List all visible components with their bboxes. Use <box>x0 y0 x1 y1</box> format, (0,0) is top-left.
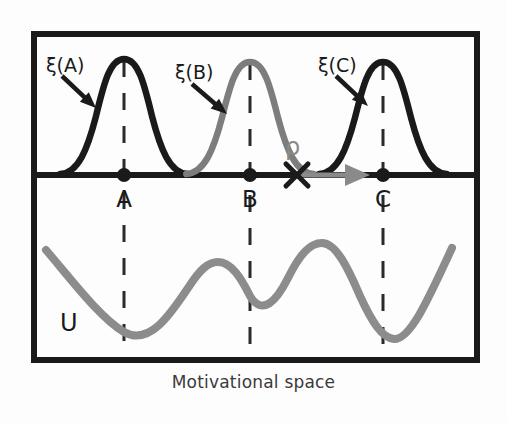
rho-arrow-head <box>345 164 370 186</box>
xi-c-label: ξ(C) <box>318 54 357 76</box>
top-panel-curves <box>60 59 446 174</box>
axis-point-dot-c <box>376 168 390 182</box>
axis-point-label-a: A <box>116 186 132 212</box>
motivational-space-diagram: ξ(A) ξ(B) ξ(C) ρ A B C U <box>0 0 507 423</box>
axis-point-label-c: C <box>375 186 391 212</box>
xi-b-pointer-arrow-icon <box>192 84 227 114</box>
xi-a-label: ξ(A) <box>46 54 84 76</box>
rho-label: ρ <box>285 133 300 161</box>
figure-root: ξ(A) ξ(B) ξ(C) ρ A B C U Motivational sp… <box>0 0 507 423</box>
axis-point-label-b: B <box>242 186 258 212</box>
axis-point-dot-a <box>117 168 131 182</box>
axis-point-dot-b <box>243 168 257 182</box>
xi-a-pointer-arrow-icon <box>62 76 96 108</box>
figure-caption: Motivational space <box>0 372 507 392</box>
xi-b-label: ξ(B) <box>175 61 213 83</box>
utility-landscape-curve <box>46 243 452 339</box>
utility-curve-label: U <box>60 309 78 337</box>
